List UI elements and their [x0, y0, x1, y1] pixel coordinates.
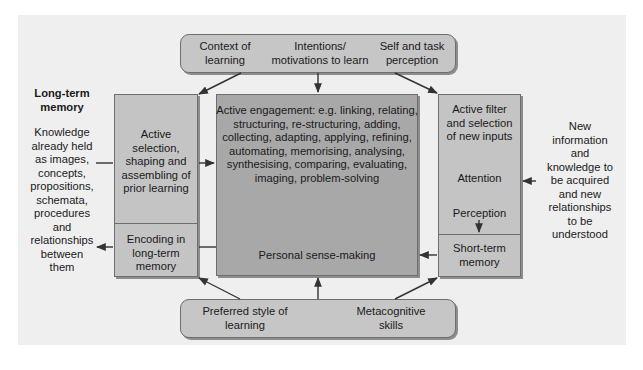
arrows-layer [0, 0, 643, 370]
arrow-metacog-to-right [395, 278, 437, 299]
arrow-preferred-to-left [199, 278, 240, 299]
arrow-self-to-right [395, 73, 437, 93]
arrow-context-to-left [199, 73, 241, 94]
